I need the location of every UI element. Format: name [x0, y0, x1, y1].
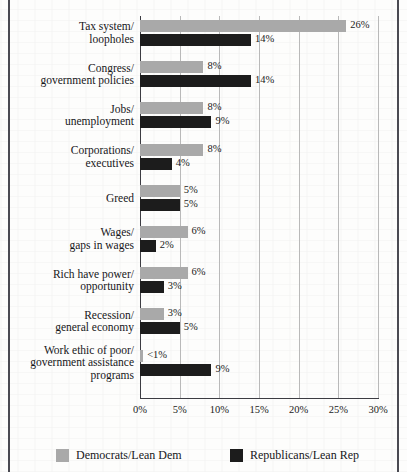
bar-value-label: 3%: [168, 307, 182, 319]
category-label-line: Corporations/: [8, 144, 134, 157]
bar-group: 8%14%: [140, 61, 378, 88]
bar-dem: [140, 350, 143, 362]
category-label-line: general economy: [8, 321, 134, 334]
bar-group: 5%5%: [140, 185, 378, 212]
bar-dem: [140, 267, 188, 279]
legend-item-democrats: Democrats/Lean Dem: [56, 446, 182, 464]
bar-rep: [140, 199, 180, 211]
bar-value-label: 5%: [184, 321, 198, 333]
category-label-line: Work ethic of poor/: [8, 344, 134, 357]
bar-value-label: 3%: [168, 280, 182, 292]
x-tick-label-15%: 15%: [239, 404, 279, 415]
x-tick-label-5%: 5%: [160, 404, 200, 415]
bar-value-label: 4%: [176, 157, 190, 169]
category-label-line: government policies: [8, 74, 134, 87]
bar-value-label: 14%: [255, 74, 274, 86]
bar-value-label: 6%: [192, 225, 206, 237]
category-label-line: programs: [8, 369, 134, 382]
legend-item-republicans: Republicans/Lean Rep: [230, 446, 359, 464]
bar-value-label: 26%: [350, 19, 369, 31]
category-label: Recession/general economy: [8, 309, 134, 334]
bar-value-label: 5%: [184, 184, 198, 196]
category-label-line: executives: [8, 157, 134, 170]
category-label: Congress/government policies: [8, 62, 134, 87]
bar-rep: [140, 240, 156, 252]
bar-value-label: 9%: [215, 363, 229, 375]
x-tick-label-20%: 20%: [279, 404, 319, 415]
x-tick-label-25%: 25%: [318, 404, 358, 415]
category-label-line: Greed: [8, 192, 134, 205]
bar-rep: [140, 116, 211, 128]
gridline-30%: [378, 16, 379, 398]
bar-group: 6%3%: [140, 267, 378, 294]
figure-page: 26%14%8%14%8%9%8%4%5%5%6%2%6%3%3%5%<1%9%…: [0, 0, 407, 472]
legend-label-democrats: Democrats/Lean Dem: [76, 448, 182, 463]
category-label-line: unemployment: [8, 115, 134, 128]
bar-value-label: 6%: [192, 266, 206, 278]
figure-frame-right-rule: [397, 0, 399, 472]
category-label-line: government assistance: [8, 356, 134, 369]
bar-dem: [140, 308, 164, 320]
bar-rep: [140, 158, 172, 170]
category-label-line: Wages/: [8, 226, 134, 239]
legend-label-republicans: Republicans/Lean Rep: [250, 448, 359, 463]
bar-dem: [140, 144, 203, 156]
category-label: Tax system/loopholes: [8, 20, 134, 45]
category-label-line: loopholes: [8, 33, 134, 46]
bar-value-label: 2%: [160, 239, 174, 251]
bar-rep: [140, 75, 251, 87]
category-label-line: Rich have power/: [8, 268, 134, 281]
bar-dem: [140, 61, 203, 73]
bar-group: 26%14%: [140, 20, 378, 47]
bar-rep: [140, 34, 251, 46]
x-axis-line: [140, 398, 379, 399]
bar-dem: [140, 20, 346, 32]
bar-dem: [140, 226, 188, 238]
category-label: Wages/gaps in wages: [8, 226, 134, 251]
bar-group: <1%9%: [140, 350, 378, 377]
bar-group: 8%4%: [140, 144, 378, 171]
bar-value-label: 8%: [207, 101, 221, 113]
bar-value-label: 8%: [207, 143, 221, 155]
x-tick-label-0%: 0%: [120, 404, 160, 415]
bar-value-label: 8%: [207, 60, 221, 72]
plot-area: 26%14%8%14%8%9%8%4%5%5%6%2%6%3%3%5%<1%9%: [140, 16, 378, 398]
bar-value-label: 14%: [255, 33, 274, 45]
x-tick-label-10%: 10%: [199, 404, 239, 415]
bar-group: 3%5%: [140, 308, 378, 335]
chart-legend: Democrats/Lean Dem Republicans/Lean Rep: [0, 446, 407, 468]
bar-value-label: <1%: [147, 349, 167, 361]
bar-rep: [140, 364, 211, 376]
rep-swatch-icon: [230, 449, 243, 462]
bar-group: 6%2%: [140, 226, 378, 253]
category-label: Work ethic of poor/government assistance…: [8, 344, 134, 382]
bar-value-label: 5%: [184, 198, 198, 210]
bar-dem: [140, 185, 180, 197]
category-label: Rich have power/opportunity: [8, 268, 134, 293]
bar-value-label: 9%: [215, 115, 229, 127]
category-label: Jobs/unemployment: [8, 103, 134, 128]
bar-dem: [140, 102, 203, 114]
bar-rep: [140, 281, 164, 293]
x-tick-label-30%: 30%: [358, 404, 398, 415]
dem-swatch-icon: [56, 449, 69, 462]
category-label-line: Tax system/: [8, 20, 134, 33]
bar-group: 8%9%: [140, 102, 378, 129]
category-label: Corporations/executives: [8, 144, 134, 169]
category-label: Greed: [8, 192, 134, 205]
category-label-line: Jobs/: [8, 103, 134, 116]
bar-rep: [140, 322, 180, 334]
category-label-line: opportunity: [8, 280, 134, 293]
category-label-line: Congress/: [8, 62, 134, 75]
category-label-line: gaps in wages: [8, 239, 134, 252]
category-label-line: Recession/: [8, 309, 134, 322]
